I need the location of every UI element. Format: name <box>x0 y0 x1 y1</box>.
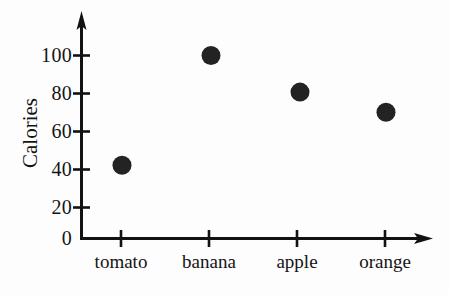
data-points <box>113 46 396 175</box>
y-tick-label-20: 20 <box>2 197 72 217</box>
y-tick-label-60: 60 <box>2 121 72 141</box>
data-point-orange <box>377 103 396 122</box>
data-point-tomato <box>113 156 132 175</box>
y-tick-label-100: 100 <box>2 45 72 65</box>
data-point-banana <box>202 46 221 65</box>
data-point-apple <box>291 83 310 102</box>
x-tick-label-orange: orange <box>330 252 440 272</box>
y-tick-label-40: 40 <box>2 159 72 179</box>
y-tick-label-0: 0 <box>2 228 72 248</box>
y-tick-label-80: 80 <box>2 83 72 103</box>
chart-screenshot: Calories 100 80 60 40 20 0 tomato banana… <box>0 0 449 295</box>
